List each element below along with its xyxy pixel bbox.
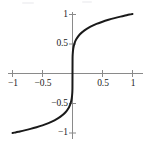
- x-tick-label-neg-half: −0.5: [35, 79, 52, 89]
- x-tick-label-pos-half: 0.5: [97, 79, 109, 89]
- y-tick-label-pos1: 1: [54, 10, 68, 20]
- y-tick-label-pos-half: 0.5: [44, 39, 68, 49]
- y-tick-label-neg-half: −0.5: [38, 99, 68, 109]
- x-tick-label-neg1: −1: [8, 79, 18, 89]
- y-tick-label-neg1: −1: [48, 128, 68, 138]
- plot-canvas: [0, 0, 151, 147]
- axes-group: [8, 12, 143, 139]
- x-tick-label-pos1: 1: [131, 79, 136, 89]
- function-plot-figure: −1 −0.5 0.5 1 1 0.5 −0.5 −1: [0, 0, 151, 147]
